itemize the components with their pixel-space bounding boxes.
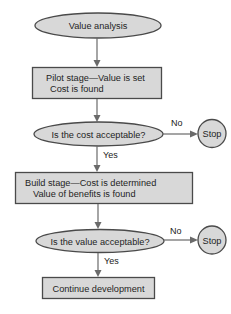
decision-cost-node: Is the cost acceptable? (34, 122, 163, 146)
connector-decision-value-yes: Yes (95, 253, 120, 277)
no-label-1: No (171, 118, 183, 128)
decision-value-node: Is the value acceptable? (36, 230, 164, 253)
connector-pilot-to-decision-cost (94, 99, 101, 122)
arrow-down-icon (95, 270, 102, 277)
connector-decision-value-no: No (164, 226, 198, 244)
connector-start-to-pilot (94, 38, 101, 67)
arrow-right-icon (190, 131, 198, 138)
stop-node-2: Stop (198, 226, 226, 254)
pilot-stage-line2: Cost is found (50, 84, 104, 94)
yes-label-1: Yes (103, 150, 118, 160)
build-stage-line1: Build stage—Cost is determined (25, 178, 156, 188)
flowchart-canvas: Value analysis Pilot stage—Value is set … (0, 0, 231, 314)
start-node: Value analysis (35, 13, 161, 38)
connector-decision-cost-no: No (163, 118, 198, 138)
pilot-stage-node: Pilot stage—Value is set Cost is found (33, 68, 162, 99)
arrow-down-icon (94, 165, 101, 172)
pilot-stage-line1: Pilot stage—Value is set (46, 73, 145, 83)
arrow-down-icon (94, 60, 101, 67)
build-stage-line2: Value of benefits is found (33, 189, 136, 199)
arrow-down-icon (95, 222, 102, 229)
decision-value-label: Is the value acceptable? (50, 237, 149, 247)
start-label: Value analysis (69, 21, 128, 31)
continue-development-label: Continue development (53, 284, 145, 294)
arrow-right-icon (190, 237, 198, 244)
no-label-2: No (170, 226, 182, 236)
stop-label-1: Stop (203, 129, 222, 139)
arrow-down-icon (94, 115, 101, 122)
connector-decision-cost-yes: Yes (94, 146, 119, 172)
stop-node-1: Stop (198, 120, 226, 148)
decision-cost-label: Is the cost acceptable? (52, 130, 146, 140)
continue-development-node: Continue development (43, 278, 155, 299)
connector-build-to-decision-value (95, 204, 102, 229)
build-stage-node: Build stage—Cost is determined Value of … (16, 173, 193, 204)
stop-label-2: Stop (203, 236, 222, 246)
yes-label-2: Yes (104, 256, 119, 266)
